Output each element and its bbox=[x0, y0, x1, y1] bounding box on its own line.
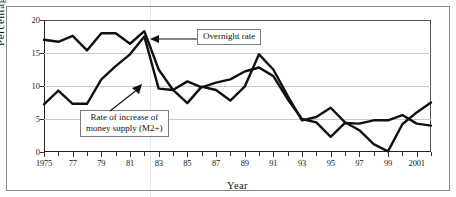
annotation-arrow-overnight bbox=[150, 32, 198, 46]
x-tick-mark-1985 bbox=[187, 152, 188, 157]
x-tick-mark-1994 bbox=[316, 152, 317, 156]
x-tick-mark-1989 bbox=[245, 152, 246, 157]
x-tick-label-1987: 87 bbox=[202, 158, 230, 168]
x-tick-mark-1991 bbox=[273, 152, 274, 157]
x-tick-label-1993: 93 bbox=[288, 158, 316, 168]
x-tick-mark-1999 bbox=[388, 152, 389, 157]
x-tick-label-1979: 79 bbox=[87, 158, 115, 168]
x-tick-label-1991: 91 bbox=[259, 158, 287, 168]
x-tick-label-1975: 1975 bbox=[30, 158, 58, 168]
x-tick-mark-1986 bbox=[202, 152, 203, 156]
x-tick-label-1989: 89 bbox=[231, 158, 259, 168]
figure-container: Percentage 20 15 10 5 0 1975777981838587… bbox=[0, 0, 456, 197]
annotation-arrow-money bbox=[108, 84, 144, 112]
x-tick-mark-1988 bbox=[230, 152, 231, 156]
annotation-money-line2: money supply (M2+) bbox=[86, 123, 163, 134]
x-tick-label-1985: 85 bbox=[173, 158, 201, 168]
annotation-money-line1: Rate of increase of bbox=[86, 112, 163, 123]
x-tick-mark-1977 bbox=[73, 152, 74, 157]
x-tick-mark-1981 bbox=[130, 152, 131, 157]
x-tick-mark-1995 bbox=[331, 152, 332, 157]
x-tick-mark-1987 bbox=[216, 152, 217, 157]
x-tick-mark-1993 bbox=[302, 152, 303, 157]
x-tick-label-1983: 83 bbox=[145, 158, 173, 168]
x-tick-mark-2000 bbox=[402, 152, 403, 156]
x-tick-mark-1984 bbox=[173, 152, 174, 156]
x-tick-mark-2001 bbox=[417, 152, 418, 157]
x-tick-mark-1978 bbox=[87, 152, 88, 156]
x-tick-mark-1996 bbox=[345, 152, 346, 156]
x-tick-mark-1992 bbox=[288, 152, 289, 156]
annotation-overnight-rate: Overnight rate bbox=[197, 29, 261, 45]
x-axis-title: Year bbox=[44, 180, 431, 191]
annotation-money-supply: Rate of increase of money supply (M2+) bbox=[80, 110, 169, 137]
y-axis-title: Percentage bbox=[0, 0, 6, 46]
x-tick-mark-1998 bbox=[374, 152, 375, 156]
x-tick-mark-1982 bbox=[144, 152, 145, 156]
x-tick-mark-2002 bbox=[431, 152, 432, 156]
x-tick-mark-1980 bbox=[116, 152, 117, 156]
x-tick-label-2001: 2001 bbox=[403, 158, 431, 168]
x-tick-mark-1976 bbox=[58, 152, 59, 156]
x-tick-label-1977: 77 bbox=[59, 158, 87, 168]
x-tick-mark-1975 bbox=[44, 152, 45, 157]
x-tick-mark-1997 bbox=[359, 152, 360, 157]
x-tick-mark-1990 bbox=[259, 152, 260, 156]
x-tick-label-1997: 97 bbox=[345, 158, 373, 168]
x-tick-mark-1979 bbox=[101, 152, 102, 157]
x-tick-label-1995: 95 bbox=[317, 158, 345, 168]
x-tick-label-1999: 99 bbox=[374, 158, 402, 168]
x-tick-mark-1983 bbox=[159, 152, 160, 157]
x-tick-label-1981: 81 bbox=[116, 158, 144, 168]
